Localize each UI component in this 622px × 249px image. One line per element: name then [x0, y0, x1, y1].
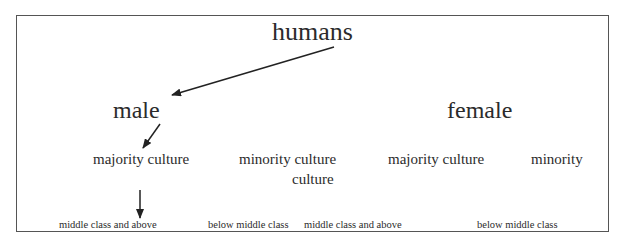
arrow-male-to-majority-culture: [143, 124, 160, 148]
arrow-humans-to-male: [172, 47, 334, 95]
arrows-layer: [0, 0, 622, 249]
